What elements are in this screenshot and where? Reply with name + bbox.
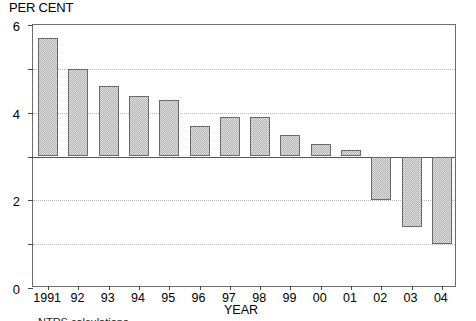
bar <box>129 96 149 156</box>
x-axis-label: 96 <box>192 291 206 305</box>
x-axis-tick <box>290 286 291 290</box>
x-axis-tick <box>78 286 79 290</box>
y-axis-label: 0 <box>13 283 20 296</box>
y-axis-title: PER CENT <box>9 0 73 15</box>
x-axis-label: 93 <box>101 291 115 305</box>
bar <box>371 157 391 201</box>
x-axis-tick <box>321 286 322 290</box>
x-axis-tick <box>351 286 352 290</box>
y-axis-tick: -6 <box>28 288 33 289</box>
bar <box>402 157 422 227</box>
chart-footnote: NTRS calculations <box>38 316 128 321</box>
x-axis-tick <box>381 286 382 290</box>
x-axis-tick <box>109 286 110 290</box>
y-axis-tick: 2 <box>28 113 33 114</box>
plot-inner: 6420-2-4-6 <box>33 25 455 286</box>
x-axis-label: 92 <box>70 291 84 305</box>
bar <box>432 157 452 245</box>
x-axis-tick <box>412 286 413 290</box>
x-axis-tick <box>200 286 201 290</box>
bar <box>159 100 179 157</box>
y-axis-label: 4 <box>13 107 20 120</box>
zero-line <box>33 157 455 158</box>
bar <box>341 150 361 157</box>
x-axis-tick <box>139 286 140 290</box>
y-axis-tick: 4 <box>28 69 33 70</box>
bar <box>68 69 88 157</box>
gridline <box>33 69 455 70</box>
bar-chart: PER CENT 6420-2-4-6 19919293949596979899… <box>0 0 476 321</box>
x-axis-label: 01 <box>343 291 357 305</box>
bar <box>250 117 270 156</box>
x-axis-tick <box>169 286 170 290</box>
gridline <box>33 200 455 201</box>
x-axis-label: 03 <box>404 291 418 305</box>
x-axis-tick <box>260 286 261 290</box>
x-axis-tick <box>442 286 443 290</box>
x-axis-label: 02 <box>373 291 387 305</box>
x-axis-tick <box>230 286 231 290</box>
x-axis-label: 95 <box>161 291 175 305</box>
y-axis-label: 6 <box>13 20 20 33</box>
bar <box>38 38 58 156</box>
x-axis-tick <box>48 286 49 290</box>
bar <box>311 144 331 156</box>
x-axis-label: 94 <box>131 291 145 305</box>
x-axis-label: 00 <box>313 291 327 305</box>
gridline <box>33 244 455 245</box>
x-axis-label: 1991 <box>33 291 61 305</box>
bar <box>190 126 210 157</box>
plot-area: 6420-2-4-6 <box>32 24 456 287</box>
gridline <box>33 113 455 114</box>
x-axis-label: 04 <box>434 291 448 305</box>
y-axis-tick: -2 <box>28 200 33 201</box>
bar <box>99 86 119 156</box>
x-axis-title: YEAR <box>224 303 258 317</box>
bar <box>220 117 240 156</box>
x-axis-label: 99 <box>282 291 296 305</box>
y-axis-tick: 6 <box>28 25 33 26</box>
bar <box>280 135 300 157</box>
y-axis-tick: 0 <box>28 157 33 158</box>
y-axis-label: 2 <box>13 195 20 208</box>
y-axis-tick: -4 <box>28 244 33 245</box>
